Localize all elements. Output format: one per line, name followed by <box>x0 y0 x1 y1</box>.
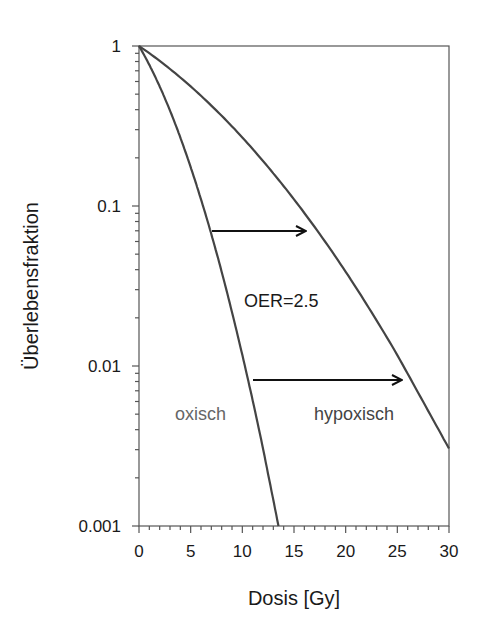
hypoxic-survival-curve <box>139 46 449 449</box>
y-tick-label: 0.1 <box>97 197 121 216</box>
y-tick-labels: 1 0.1 0.01 0.001 <box>78 37 121 536</box>
y-tick-label: 0.001 <box>78 517 121 536</box>
oxic-survival-curve <box>139 46 279 526</box>
plot-frame <box>139 46 449 526</box>
x-tick-label: 30 <box>440 542 459 561</box>
x-tick-label: 25 <box>388 542 407 561</box>
oer-label: OER=2.5 <box>244 291 319 311</box>
y-tick-label: 0.01 <box>88 357 121 376</box>
y-axis-ticks <box>132 46 139 526</box>
oxic-label: oxisch <box>175 404 226 424</box>
x-tick-labels: 0 5 10 15 20 25 30 <box>134 542 458 561</box>
y-tick-label: 1 <box>112 37 121 56</box>
x-axis-title: Dosis [Gy] <box>248 587 340 609</box>
x-tick-label: 0 <box>134 542 143 561</box>
hypoxic-label: hypoxisch <box>314 404 394 424</box>
x-tick-label: 20 <box>336 542 355 561</box>
y-axis-title: Überlebensfraktion <box>20 202 42 370</box>
x-tick-label: 15 <box>285 542 304 561</box>
x-axis-ticks <box>139 526 449 533</box>
survival-curve-chart: 0 5 10 15 20 25 30 1 0.1 0.01 0.001 Dosi… <box>0 0 484 642</box>
x-tick-label: 10 <box>233 542 252 561</box>
x-tick-label: 5 <box>186 542 195 561</box>
